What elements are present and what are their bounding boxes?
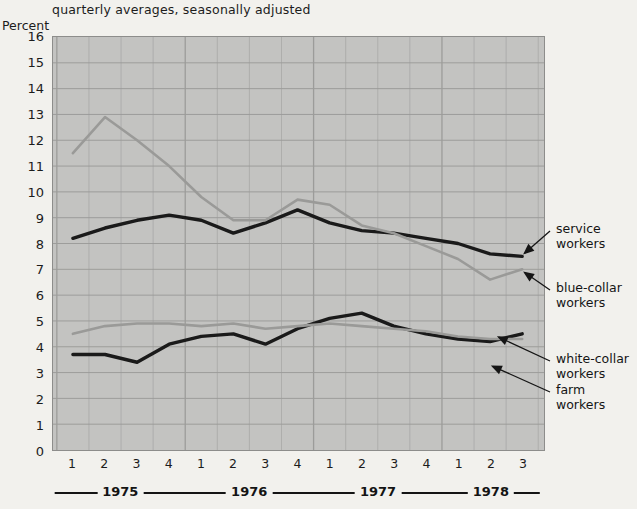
unemployment-rate-chart: quarterly averages, seasonally adjusted … <box>0 0 637 509</box>
x-tick-label: 2 <box>92 456 116 471</box>
year-rule <box>401 492 443 494</box>
x-tick-label: 3 <box>253 456 277 471</box>
y-tick-label: 5 <box>4 314 44 329</box>
y-tick-label: 0 <box>4 444 44 459</box>
year-group: 1977 <box>313 482 444 504</box>
x-tick-label: 3 <box>124 456 148 471</box>
chart-subtitle: quarterly averages, seasonally adjusted <box>52 2 311 17</box>
callout-label-line1: blue-collar <box>556 281 622 296</box>
y-tick-label: 11 <box>4 158 44 173</box>
y-tick-label: 12 <box>4 132 44 147</box>
y-tick-label: 13 <box>4 106 44 121</box>
callout-service: serviceworkers <box>556 222 605 252</box>
y-tick-label: 7 <box>4 262 44 277</box>
callout-farm: farmworkers <box>556 383 605 413</box>
year-group: 1975 <box>55 482 186 504</box>
callout-label-line2: workers <box>556 237 605 252</box>
x-tick-label: 1 <box>318 456 342 471</box>
y-tick-label: 6 <box>4 288 44 303</box>
y-tick-label: 16 <box>4 29 44 44</box>
series-line-white-collar-workers <box>73 313 522 362</box>
year-group: 1978 <box>442 482 540 504</box>
y-tick-label: 15 <box>4 54 44 69</box>
y-tick-label: 2 <box>4 392 44 407</box>
callout-label-line2: workers <box>556 296 622 311</box>
year-label: 1976 <box>226 484 272 499</box>
x-tick-label: 2 <box>479 456 503 471</box>
x-tick-label: 4 <box>414 456 438 471</box>
year-rule <box>55 492 97 494</box>
x-tick-label: 1 <box>447 456 471 471</box>
series-line-service-workers <box>73 210 522 256</box>
plot-area <box>52 36 545 451</box>
y-tick-label: 4 <box>4 340 44 355</box>
year-rule <box>143 492 185 494</box>
series-line-blue-collar-workers <box>73 117 522 280</box>
year-label: 1975 <box>97 484 143 499</box>
year-rule <box>442 492 468 494</box>
callout-white-collar: white-collarworkers <box>556 352 629 382</box>
x-tick-label: 4 <box>286 456 310 471</box>
callout-label-line1: service <box>556 222 605 237</box>
year-group: 1976 <box>184 482 315 504</box>
y-tick-label: 10 <box>4 184 44 199</box>
year-rule <box>514 492 540 494</box>
year-rule <box>272 492 314 494</box>
year-label: 1977 <box>355 484 401 499</box>
year-rule <box>313 492 355 494</box>
callout-label-line1: white-collar <box>556 352 629 367</box>
x-tick-label: 4 <box>157 456 181 471</box>
series-line-farm-workers <box>73 324 522 339</box>
y-tick-label: 9 <box>4 210 44 225</box>
x-tick-label: 2 <box>221 456 245 471</box>
year-label: 1978 <box>468 484 514 499</box>
callout-label-line2: workers <box>556 398 605 413</box>
x-tick-label: 3 <box>511 456 535 471</box>
callout-blue-collar: blue-collarworkers <box>556 281 622 311</box>
x-tick-label: 3 <box>382 456 406 471</box>
year-rule <box>184 492 226 494</box>
x-tick-label: 1 <box>60 456 84 471</box>
x-tick-label: 2 <box>350 456 374 471</box>
x-tick-label: 1 <box>189 456 213 471</box>
y-tick-label: 1 <box>4 418 44 433</box>
callout-label-line2: workers <box>556 367 629 382</box>
y-tick-label: 8 <box>4 236 44 251</box>
data-lines <box>53 37 544 450</box>
callout-label-line1: farm <box>556 383 605 398</box>
y-tick-label: 3 <box>4 366 44 381</box>
y-tick-label: 14 <box>4 80 44 95</box>
